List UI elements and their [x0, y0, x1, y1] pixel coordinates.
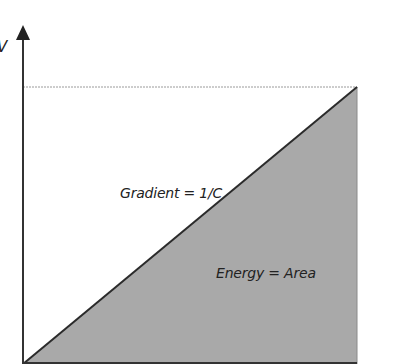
y-axis-arrow-icon: [16, 25, 30, 40]
area-label: Energy = Area: [216, 265, 316, 281]
gradient-label: Gradient = 1/C: [120, 185, 222, 201]
diagram-canvas: [0, 0, 403, 364]
y-axis-label: V: [0, 38, 7, 56]
